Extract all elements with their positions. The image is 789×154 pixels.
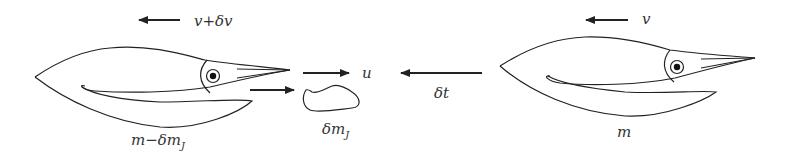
squid-after-eye-pupil bbox=[210, 73, 216, 79]
squid-after-beak-line-2 bbox=[237, 70, 290, 78]
diagram-graphics bbox=[0, 0, 789, 154]
mass-label-after: m−δmJ bbox=[131, 133, 185, 151]
ejected-mass-label-main: δm bbox=[322, 120, 345, 138]
ejection-velocity-label: u bbox=[362, 66, 372, 81]
mass-label-after-subscript: J bbox=[181, 140, 185, 151]
time-step-label: δt bbox=[434, 86, 449, 101]
squid-before-head-line bbox=[664, 50, 674, 82]
squid-before-beak-line-2 bbox=[701, 58, 755, 68]
squid-before-fin bbox=[500, 66, 716, 116]
squid-before-beak-line-1 bbox=[701, 58, 755, 59]
ejected-mass-label: δmJ bbox=[322, 122, 349, 140]
squid-after bbox=[35, 47, 290, 127]
ejected-mass-label-subscript: J bbox=[345, 129, 349, 140]
velocity-label-after: v+δv bbox=[194, 14, 233, 29]
mass-label-before: m bbox=[617, 125, 631, 140]
ejected-mass-blob bbox=[303, 85, 359, 111]
squid-before-body-outline bbox=[500, 37, 755, 85]
squid-jet-propulsion-diagram: v+δv v u δt δmJ m−δmJ m bbox=[0, 0, 789, 154]
squid-before bbox=[500, 37, 755, 116]
velocity-label-before: v bbox=[642, 12, 650, 27]
mass-label-after-main: m−δm bbox=[131, 131, 181, 149]
squid-before-eye-pupil bbox=[674, 64, 680, 70]
